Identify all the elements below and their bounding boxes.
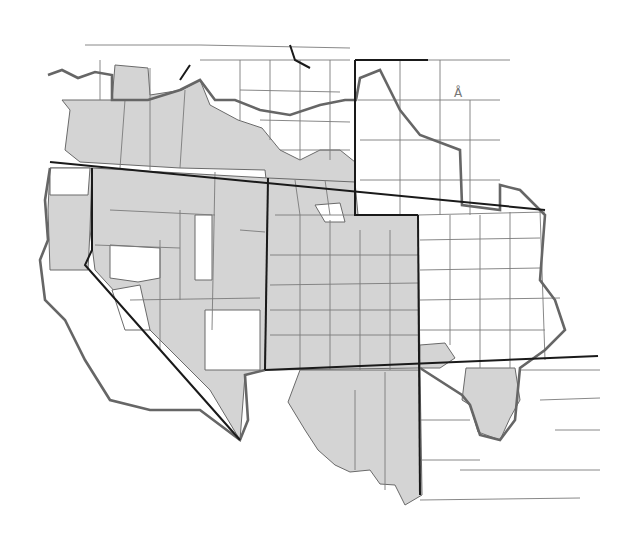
map-canvas bbox=[0, 0, 630, 542]
north-arrow-icon: Å bbox=[454, 86, 462, 100]
